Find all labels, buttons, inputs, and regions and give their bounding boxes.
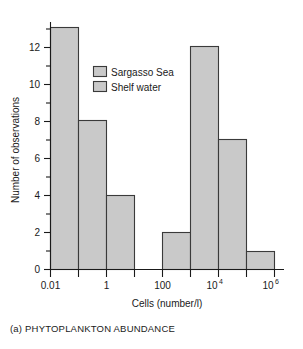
x-tick-label-3: 10 4 (206, 278, 223, 291)
x-tick-label-3-base: 10 (206, 280, 218, 291)
legend-label-sargasso-sea: Sargasso Sea (111, 67, 174, 78)
bar-bin-5 (191, 47, 219, 270)
y-axis: 0 2 4 6 8 10 12 Number of observations (10, 22, 51, 275)
x-tick-label-4-exp: 6 (275, 278, 279, 285)
y-tick-label-8: 8 (34, 116, 40, 127)
x-tick-label-1: 1 (104, 280, 110, 291)
x-tick-label-4: 10 6 (262, 278, 279, 291)
bar-bin-6 (219, 140, 247, 270)
y-tick-label-10: 10 (29, 79, 41, 90)
x-tick-label-2: 100 (154, 280, 171, 291)
x-axis: 0.01 1 100 10 4 10 6 Cells (number/l) (41, 270, 284, 310)
figure-phytoplankton-abundance: 0 2 4 6 8 10 12 Number of observations 0… (0, 0, 303, 349)
bar-bin-1 (79, 121, 107, 270)
legend-swatch-shelf-water (94, 82, 107, 92)
y-tick-label-6: 6 (34, 153, 40, 164)
figure-caption: (a) PHYTOPLANKTON ABUNDANCE (10, 323, 175, 334)
y-tick-label-2: 2 (34, 227, 40, 238)
legend-label-shelf-water: Shelf water (111, 82, 162, 93)
x-axis-title: Cells (number/l) (132, 298, 203, 309)
chart-canvas: 0 2 4 6 8 10 12 Number of observations 0… (0, 0, 303, 349)
bar-bin-7 (247, 252, 275, 270)
bar-bin-4 (163, 233, 191, 270)
y-tick-label-4: 4 (34, 190, 40, 201)
y-axis-title: Number of observations (10, 97, 21, 203)
x-tick-label-4-base: 10 (262, 280, 274, 291)
x-tick-label-0: 0.01 (41, 280, 61, 291)
bars-group (51, 28, 275, 270)
x-tick-label-3-exp: 4 (219, 278, 223, 285)
y-tick-label-0: 0 (34, 264, 40, 275)
bar-bin-0 (51, 28, 79, 270)
y-tick-label-12: 12 (29, 42, 41, 53)
legend: Sargasso Sea Shelf water (94, 67, 175, 94)
legend-swatch-sargasso-sea (94, 67, 107, 77)
bar-bin-2 (107, 196, 135, 270)
